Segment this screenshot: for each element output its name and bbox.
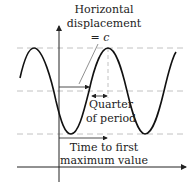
horizontal-displacement-label-1: Horizontal [75, 3, 134, 16]
horizontal-displacement-label-2: displacement [67, 17, 142, 30]
time-to-max-label-2: maximum value [60, 154, 148, 167]
horizontal-displacement-label-3: = c [91, 31, 110, 44]
leader-line [79, 44, 98, 84]
time-to-max-label-1: Time to first [70, 141, 139, 154]
quarter-period-label-2: of period [86, 112, 136, 125]
quarter-period-label-1: Quarter [89, 98, 134, 111]
phase-shift-diagram: Horizontal displacement = c Quarter of p… [0, 0, 194, 191]
